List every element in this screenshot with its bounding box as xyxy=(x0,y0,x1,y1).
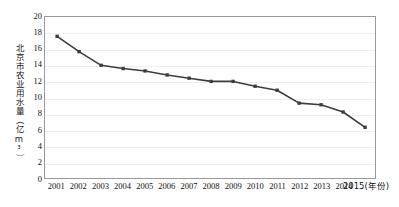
x-axis-tick-label: 2001 xyxy=(48,181,65,192)
x-axis-tick-labels: 2001200220032004200520062007200820092010… xyxy=(44,181,399,195)
agricultural-water-usage-line-chart: 北京市农业用水量（亿m³） 20181614121086420 20012002… xyxy=(0,0,399,207)
x-axis-tick-label: 2002 xyxy=(70,181,87,192)
y-axis-tick-label: 12 xyxy=(26,77,42,86)
y-axis-tick-label: 8 xyxy=(26,109,42,118)
y-axis-tick-label: 6 xyxy=(26,126,42,135)
data-point-marker xyxy=(341,110,344,113)
data-point-marker xyxy=(297,101,300,104)
x-axis-tick-label: 2007 xyxy=(180,181,197,192)
plot-area xyxy=(44,16,376,179)
data-point-marker xyxy=(275,89,278,92)
y-axis-tick-label: 0 xyxy=(26,175,42,184)
y-axis-tick-label: 4 xyxy=(26,142,42,151)
data-point-marker xyxy=(231,80,234,83)
x-axis-tick-label: 2010 xyxy=(247,181,264,192)
y-axis-tick-label: 2 xyxy=(26,158,42,167)
data-point-marker xyxy=(209,80,212,83)
x-axis-tick-label: 2009 xyxy=(225,181,242,192)
y-axis-title: 北京市农业用水量（亿m³） xyxy=(11,28,27,178)
data-point-marker xyxy=(165,73,168,76)
data-series-line xyxy=(45,17,375,178)
x-axis-tick-label: 2012 xyxy=(291,181,308,192)
data-point-marker xyxy=(55,35,58,38)
x-axis-tick-label: 2011 xyxy=(269,181,286,192)
y-axis-tick-label: 20 xyxy=(26,12,42,21)
y-axis-tick-label: 14 xyxy=(26,60,42,69)
data-point-marker xyxy=(77,50,80,53)
data-point-marker xyxy=(363,126,366,129)
x-axis-tick-label: 2008 xyxy=(203,181,220,192)
y-axis-tick-label: 10 xyxy=(26,93,42,102)
y-axis-tick-label: 18 xyxy=(26,28,42,37)
x-axis-tick-label: 2004 xyxy=(114,181,131,192)
x-axis-tick-label: 2003 xyxy=(92,181,109,192)
y-axis-tick-labels: 20181614121086420 xyxy=(26,12,42,184)
x-axis-tick-label: 2006 xyxy=(158,181,175,192)
data-point-marker xyxy=(187,77,190,80)
x-axis-tick-label: 2013 xyxy=(313,181,330,192)
data-point-marker xyxy=(121,67,124,70)
data-point-marker xyxy=(143,69,146,72)
data-point-marker xyxy=(319,103,322,106)
x-axis-tick-label: 2005 xyxy=(136,181,153,192)
data-point-marker xyxy=(253,85,256,88)
data-point-marker xyxy=(99,64,102,67)
x-axis-tick-label: 2015(年份) xyxy=(343,181,389,192)
y-axis-tick-label: 16 xyxy=(26,44,42,53)
series-markers xyxy=(55,35,366,129)
